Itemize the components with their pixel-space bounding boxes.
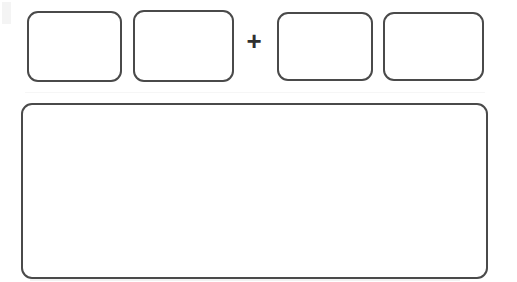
- worksheet-canvas: +: [0, 0, 517, 282]
- answer-box-3[interactable]: [277, 12, 373, 81]
- scan-artifact-top-left: [2, 2, 11, 24]
- answer-box-4[interactable]: [383, 12, 484, 81]
- answer-box-2[interactable]: [133, 10, 234, 82]
- answer-box-1[interactable]: [27, 11, 122, 82]
- scan-artifact-mid: [25, 92, 485, 93]
- scan-artifact-bottom: [30, 279, 460, 281]
- plus-icon: +: [240, 24, 268, 58]
- work-area-box[interactable]: [21, 103, 488, 279]
